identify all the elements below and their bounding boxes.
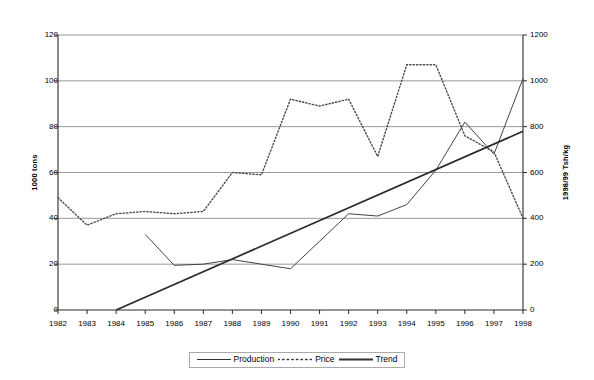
gridlines: [58, 35, 523, 264]
series-line-production: [145, 79, 523, 269]
series-line-price: [58, 65, 523, 225]
series-line-trend: [116, 131, 523, 310]
chart-figure: 1000 tons 1998/99 Tsh/kg 020406080100120…: [0, 0, 594, 380]
data-series: [58, 65, 523, 310]
plot-area: [0, 0, 594, 380]
axis-lines: [54, 35, 527, 314]
